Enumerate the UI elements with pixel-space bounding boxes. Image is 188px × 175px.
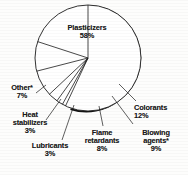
slice-label-other-value: 7% (2, 92, 42, 100)
pie-chart-figure: Plasticizers 58% Colorants 12% Blowing a… (0, 0, 188, 175)
leader-line-lubricants (62, 105, 74, 140)
slice-label-blowing-agents-value: 9% (131, 145, 181, 153)
slice-label-flame-retardants-value: 8% (76, 145, 128, 153)
slice-label-colorants-value: 12% (134, 112, 188, 120)
slice-label-lubricants-value: 3% (22, 150, 78, 158)
slice-label-plasticizers: Plasticizers 58% (54, 24, 120, 40)
slice-label-heat-stabilizers-value: 3% (3, 127, 57, 135)
slice-label-plasticizers-value: 58% (54, 32, 120, 40)
slice-label-colorants: Colorants 12% (134, 104, 188, 120)
slice-label-flame-retardants: Flame retardants 8% (76, 129, 128, 154)
slice-label-other: Other* 7% (2, 84, 42, 100)
slice-label-heat-stabilizers: Heat stabilizers 3% (3, 111, 57, 136)
slice-label-lubricants: Lubricants 3% (22, 142, 78, 158)
slice-label-blowing-agents: Blowing agents* 9% (131, 129, 181, 154)
leader-line-blowing (112, 96, 133, 124)
